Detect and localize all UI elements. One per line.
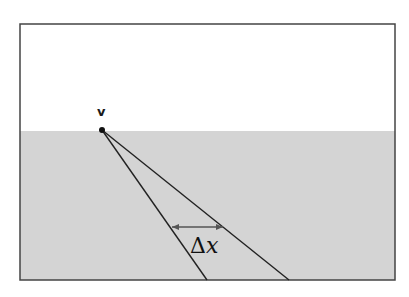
delta-variable: x bbox=[206, 233, 219, 258]
vertex-label: v bbox=[97, 104, 106, 119]
vertex-point bbox=[99, 127, 105, 133]
diagram-canvas: v Δx bbox=[0, 0, 409, 297]
delta-symbol: Δ bbox=[190, 233, 206, 258]
sky-region bbox=[20, 24, 395, 131]
delta-x-label: Δx bbox=[190, 233, 219, 258]
